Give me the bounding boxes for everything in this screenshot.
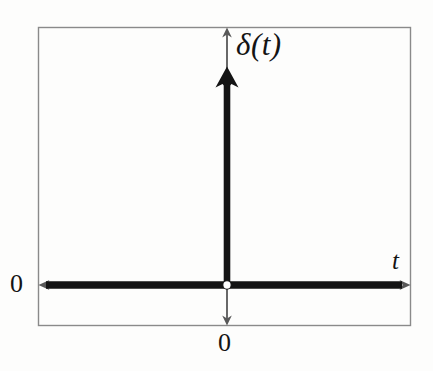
x-origin-label: 0 bbox=[218, 330, 231, 356]
origin-open-circle-marker bbox=[223, 281, 231, 289]
y-origin-label: 0 bbox=[10, 271, 23, 297]
x-axis-label: t bbox=[392, 248, 399, 273]
delta-function-plot bbox=[0, 0, 433, 371]
impulse-arrowhead-icon bbox=[216, 67, 239, 89]
function-label: δ(t) bbox=[236, 29, 282, 60]
figure-container: δ(t) t 0 0 bbox=[0, 0, 433, 371]
